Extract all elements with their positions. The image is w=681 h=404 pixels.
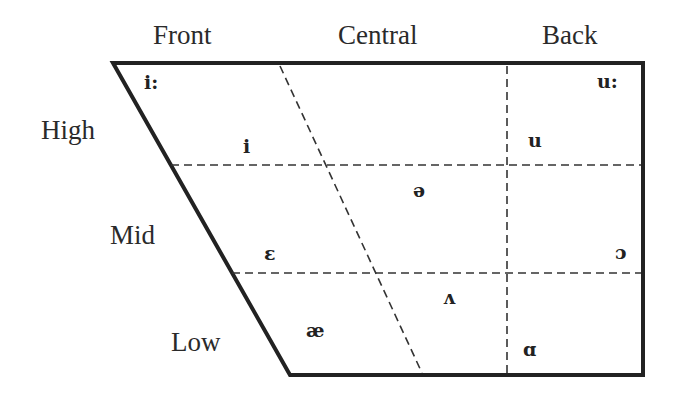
vowel-schwa: ə [413,181,425,200]
vowel-i-long: i: [144,73,158,92]
vowel-open-o: ɔ [615,243,627,262]
vowel-i: i [243,137,250,156]
vowel-wedge: ʌ [443,288,455,307]
front-central-divider [280,66,422,373]
vowel-alpha: ɑ [523,340,536,359]
row-label-mid: Mid [110,222,155,249]
vowel-u: u [528,131,542,150]
vowel-epsilon: ɛ [264,244,276,263]
vowel-u-long: u: [597,72,618,91]
vowel-trapezoid [0,0,681,404]
vowel-ash: æ [306,321,325,340]
row-label-high: High [41,117,95,144]
column-label-central: Central [338,22,417,49]
column-label-front: Front [153,22,212,49]
row-label-low: Low [171,329,221,356]
column-label-back: Back [542,22,597,49]
